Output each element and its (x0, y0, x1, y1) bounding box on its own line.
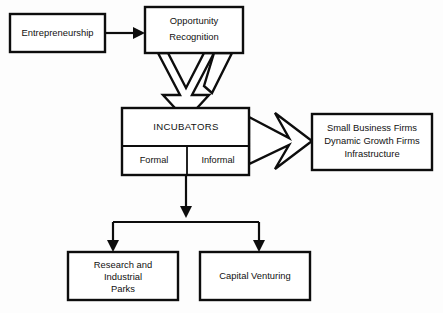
node-incubators-formal-label: Formal (140, 155, 169, 165)
arrowhead-down-icon (107, 240, 119, 252)
flow-diagram: Entrepreneurship Opportunity Recognition… (0, 0, 443, 313)
node-outcomes: Small Business Firms Dynamic Growth Firm… (312, 114, 432, 170)
node-research-industrial-parks-label-line1: Research and (94, 259, 152, 270)
arrowhead-down-icon (180, 206, 192, 218)
node-opportunity-recognition: Opportunity Recognition (145, 7, 243, 53)
chevron-right-arrow-icon (249, 113, 312, 169)
node-incubators-title: INCUBATORS (153, 121, 219, 132)
node-entrepreneurship-label: Entrepreneurship (22, 27, 94, 38)
node-outcomes-label-line3: Infrastructure (344, 148, 399, 159)
arrowhead-right-icon (133, 27, 145, 39)
node-research-industrial-parks: Research and Industrial Parks (68, 252, 178, 300)
node-incubators-informal-label: Informal (201, 155, 234, 165)
node-incubators: INCUBATORS Formal Informal (122, 108, 249, 175)
node-capital-venturing-label: Capital Venturing (219, 270, 290, 281)
connector-incubators-to-bottom-nodes (107, 175, 265, 252)
node-outcomes-label-line1: Small Business Firms (327, 122, 417, 133)
connector-entrepreneurship-to-opportunity (105, 27, 145, 39)
node-research-industrial-parks-label-line2: Industrial (104, 271, 142, 282)
node-opportunity-recognition-label-line2: Recognition (169, 31, 219, 42)
node-capital-venturing: Capital Venturing (200, 252, 310, 300)
node-entrepreneurship: Entrepreneurship (10, 14, 105, 52)
node-opportunity-recognition-label-line1: Opportunity (170, 15, 219, 26)
diagram-canvas: Entrepreneurship Opportunity Recognition… (0, 0, 443, 313)
connector-incubators-to-outcomes (249, 113, 312, 169)
node-outcomes-label-line2: Dynamic Growth Firms (324, 135, 420, 146)
node-research-industrial-parks-label-line3: Parks (111, 283, 135, 294)
arrowhead-down-icon (253, 240, 265, 252)
